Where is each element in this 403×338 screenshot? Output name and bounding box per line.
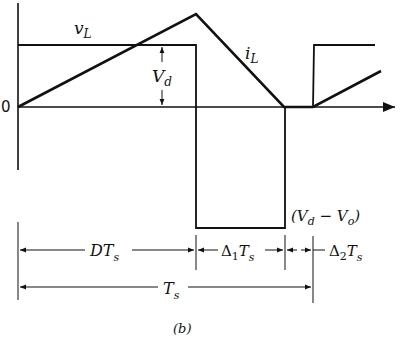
vL-waveform-next [313,45,375,107]
waveform-diagram: vL iL Vd 0 (Vd − Vo) DTs Δ1Ts Δ2Ts Ts (b… [0,0,403,338]
delta1-ts-label: Δ1Ts [221,242,255,264]
zero-label: 0 [1,98,11,116]
x-axis-arrow-icon [383,102,395,112]
dts-label: DTs [89,241,120,264]
iL-label: iL [245,43,258,66]
caption: (b) [173,321,191,336]
vd-label: Vd [152,66,172,89]
iL-waveform [18,14,381,107]
ts-label: Ts [163,279,180,302]
negative-level-label: (Vd − Vo) [291,207,360,228]
delta2-ts-label: Δ2Ts [329,242,363,264]
vL-label: vL [74,18,92,41]
